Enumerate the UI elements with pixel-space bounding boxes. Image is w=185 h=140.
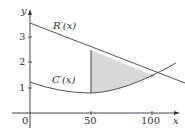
r-prime-label: R′(x) [52, 20, 76, 31]
origin-label: 0 [22, 115, 28, 126]
y-axis-arrow-icon [28, 9, 32, 15]
x-tick-label-100: 100 [141, 115, 160, 126]
y-tick-label-2: 2 [19, 56, 25, 67]
y-tick-label-3: 3 [19, 31, 25, 42]
chart: y x 0 50 100 1 2 3 R′(x) C′(x) [0, 0, 185, 140]
y-tick-label-1: 1 [19, 82, 25, 93]
x-axis-label: x [173, 115, 179, 126]
shaded-region [91, 50, 152, 93]
y-axis-label: y [20, 5, 27, 16]
c-prime-label: C′(x) [52, 74, 75, 85]
x-tick-label-50: 50 [84, 115, 97, 126]
